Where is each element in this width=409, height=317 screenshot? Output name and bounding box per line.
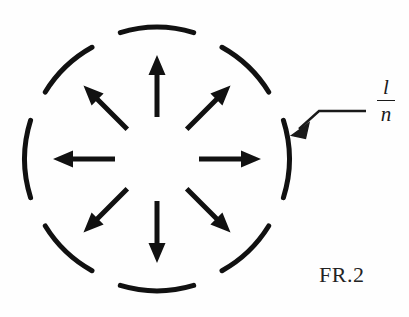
circle-arc-segment-top-right bbox=[222, 47, 269, 92]
fraction-numerator: l bbox=[371, 76, 401, 99]
radial-arrow-group bbox=[53, 55, 261, 263]
arrow-down-left bbox=[77, 183, 133, 239]
circle-arc-segment-right bbox=[283, 120, 289, 197]
arrow-up-left bbox=[77, 79, 133, 135]
circle-arc-segment-bottom-left bbox=[45, 226, 92, 271]
fraction-bar bbox=[377, 100, 395, 101]
circle-arc-segment-bottom-right bbox=[222, 226, 269, 271]
figure-container: l n FR.2 bbox=[0, 0, 409, 317]
figure-caption: FR.2 bbox=[319, 262, 364, 288]
arrow-right bbox=[199, 151, 261, 168]
callout-leader-line bbox=[292, 111, 367, 139]
arrow-up-right bbox=[181, 79, 237, 135]
callout-arrowhead-icon bbox=[292, 123, 310, 139]
arrow-down bbox=[149, 201, 166, 263]
arrow-up bbox=[149, 55, 166, 117]
circle-arc-segment-top-left bbox=[45, 47, 92, 92]
fraction-denominator: n bbox=[371, 102, 401, 125]
circle-arc-segment-top bbox=[120, 27, 193, 32]
callout-label-fraction: l n bbox=[371, 76, 401, 125]
circle-arc-segment-bottom bbox=[120, 285, 193, 290]
circle-arc-segment-left bbox=[25, 120, 31, 197]
arrow-down-right bbox=[181, 183, 237, 239]
arrow-left bbox=[53, 151, 115, 168]
callout-leader-path bbox=[299, 111, 366, 129]
